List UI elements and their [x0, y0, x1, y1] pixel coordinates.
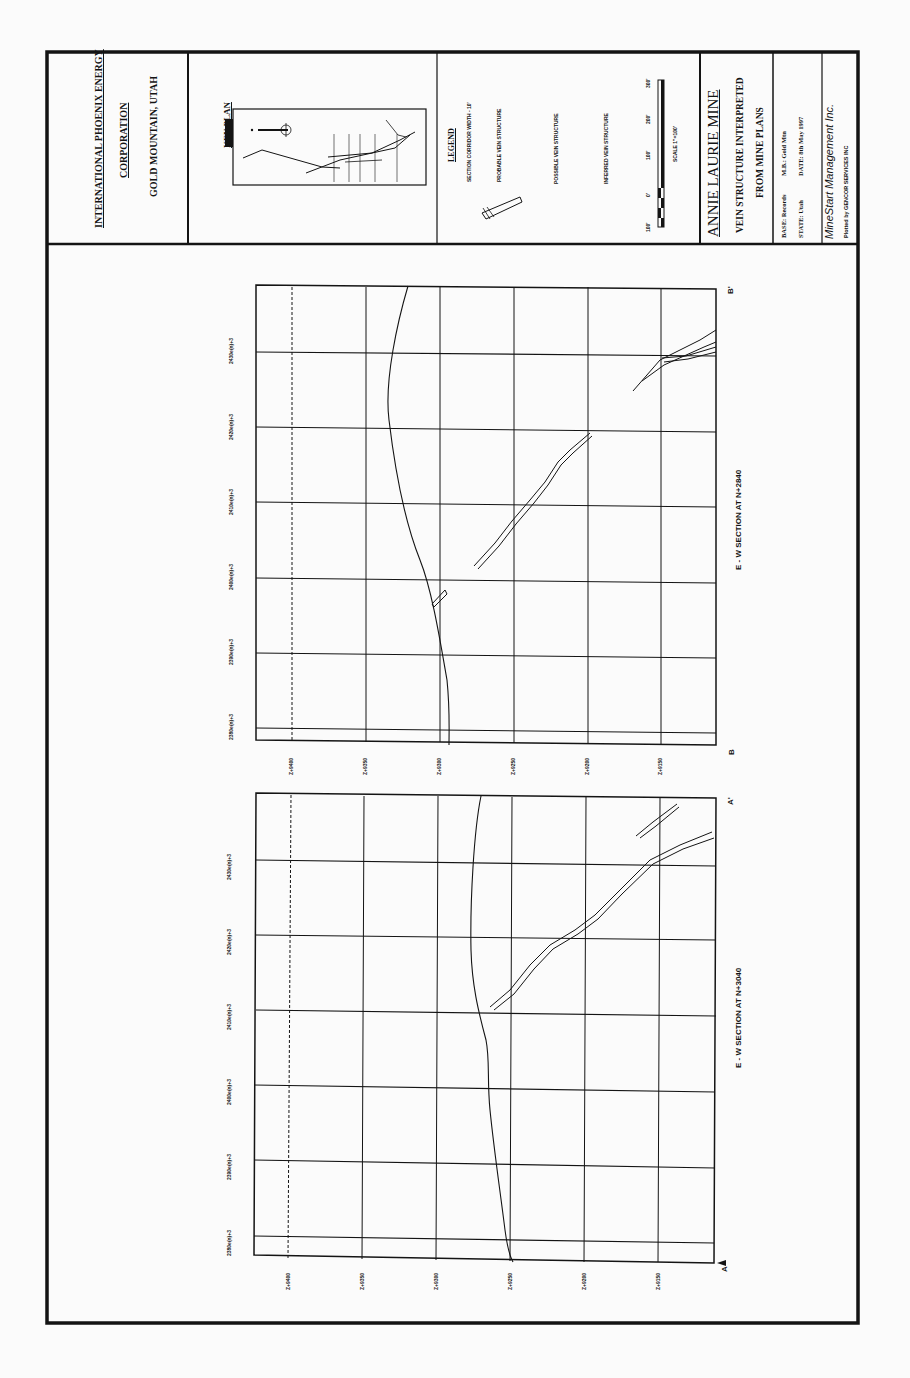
- section-b-easting-tick: 2400e(n)+3: [228, 564, 234, 590]
- section-a-easting-tick: 2390e(n)+3: [226, 1154, 232, 1180]
- scale-label-100-neg: 100': [645, 222, 651, 232]
- scale-caption: SCALE 1"=100': [672, 126, 678, 162]
- section-a-elevation-tick: Z+9350: [359, 1273, 365, 1290]
- scale-label-200: 200': [645, 114, 651, 124]
- subtitle-line2: FROM MINE PLANS: [755, 107, 765, 198]
- section-b-easting-tick: 2430e(n)+3: [228, 338, 234, 364]
- section-b-elevation-tick: Z+9350: [362, 758, 368, 775]
- section-a-elevation-tick: Z+9250: [507, 1273, 513, 1290]
- section-a-easting-tick: 2420e(n)+3: [226, 929, 232, 955]
- legend-item-inferred: INFERRED VEIN STRUCTURE: [603, 113, 609, 184]
- scale-bar: [658, 80, 664, 227]
- plotted-by: Plotted by GENCOR SERVICES INC: [843, 146, 849, 239]
- section-b-easting-tick: 2390e(n)+3: [228, 639, 234, 665]
- section-b-elevation-tick: Z+9150: [657, 758, 663, 775]
- company-name-line2: CORPORATION: [118, 103, 129, 178]
- date-label: DATE: 8th May 1997: [797, 117, 804, 176]
- section-b-easting-tick: 2420e(n)+3: [228, 414, 234, 440]
- section-b-easting-tick: 2380e(n)+3: [228, 714, 234, 740]
- sheet-border: [47, 52, 858, 1323]
- section-a-easting-tick: 2400e(n)+3: [226, 1079, 232, 1105]
- section-a-elevation-tick: Z+9400: [285, 1273, 291, 1290]
- section-a-start-marker: A: [720, 1266, 729, 1272]
- scale-label-0: 0': [645, 193, 651, 197]
- legend-item-possible: POSSIBLE VEIN STRUCTURE: [553, 113, 559, 184]
- legend-title: LEGEND: [447, 128, 456, 162]
- section-a-easting-tick: 2380e(n)+3: [226, 1230, 232, 1256]
- legend-swatch-probable-vein: [482, 197, 522, 219]
- section-a-elevation-tick: Z+9200: [581, 1273, 587, 1290]
- section-a-end-marker: A': [726, 797, 735, 805]
- legend-item-probable: PROBABLE VEIN STRUCTURE: [496, 109, 502, 182]
- section-b-elevation-tick: Z+9400: [288, 758, 294, 775]
- section-a-caption: E - W SECTION AT N+3040: [734, 968, 743, 1068]
- section-a-plot: [254, 793, 716, 1263]
- mine-name: ANNIE LAURIE MINE: [705, 90, 722, 237]
- section-b-elevation-tick: Z+9200: [584, 758, 590, 775]
- mb-label: M.B.: Gold Mtn: [780, 131, 787, 176]
- section-b-end-marker: B': [726, 286, 735, 294]
- section-a-easting-tick: 2430e(n)+3: [226, 854, 232, 880]
- section-a-easting-tick: 2410e(n)+3: [226, 1004, 232, 1030]
- legend-item-corridor: SECTION CORRIDOR WIDTH - 10': [466, 102, 472, 182]
- firm-name: MineStart Management Inc.: [823, 104, 835, 239]
- key-plan-title: KEY PLAN: [222, 102, 232, 148]
- section-b-plot: [256, 285, 716, 745]
- scale-label-100: 100': [645, 150, 651, 160]
- section-a-elevation-tick: Z+9150: [655, 1273, 661, 1290]
- section-b-easting-tick: 2410e(n)+3: [228, 489, 234, 515]
- subtitle-line1: VEIN STRUCTURE INTERPRETED: [735, 77, 745, 233]
- drawing-sheet: [0, 0, 910, 1378]
- base-label: BASE: Records: [780, 194, 787, 238]
- project-location: GOLD MOUNTAIN, UTAH: [148, 76, 159, 197]
- key-plan: [225, 109, 426, 185]
- company-name-line1: INTERNATIONAL PHOENIX ENERGY: [93, 49, 104, 228]
- section-b-elevation-tick: Z+9250: [510, 758, 516, 775]
- state-label: STATE: Utah: [797, 200, 804, 238]
- section-b-caption: E - W SECTION AT N+2840: [734, 470, 743, 570]
- section-b-elevation-tick: Z+9300: [436, 758, 442, 775]
- section-a-elevation-tick: Z+9300: [433, 1273, 439, 1290]
- section-b-start-marker: B: [727, 749, 736, 755]
- scale-label-300: 300': [645, 78, 651, 88]
